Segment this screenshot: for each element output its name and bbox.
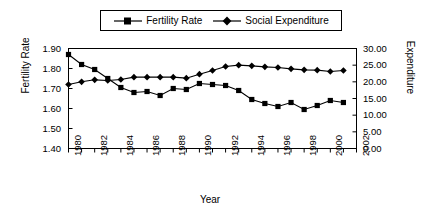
x-axis-tick-label: 1988 — [177, 126, 187, 156]
y-axis-right-tick-label: 25.00 — [363, 60, 397, 70]
x-axis-tick-label: 1992 — [230, 126, 240, 156]
x-axis-tick-label: 1990 — [203, 126, 213, 156]
y-axis-left-tick-label: 1.80 — [31, 64, 61, 74]
chart-figure: Fertility Rate Social Expenditure Fertil… — [0, 0, 438, 217]
x-axis-tick-label: 1980 — [73, 126, 83, 156]
y-axis-left-tick-label: 1.90 — [31, 44, 61, 54]
x-axis-tick-label: 1994 — [256, 126, 266, 156]
y-axis-right-tick-label: 15.00 — [363, 94, 397, 104]
x-axis-tick-label: 1986 — [151, 126, 161, 156]
x-axis-tick-label: 1982 — [99, 126, 109, 156]
y-axis-right-tick-label: 20.00 — [363, 77, 397, 87]
x-axis-tick-label: 1984 — [125, 126, 135, 156]
x-axis-tick-label: 1996 — [282, 126, 292, 156]
x-axis-tick-label: 1998 — [308, 126, 318, 156]
y-axis-left-tick-label: 1.60 — [31, 104, 61, 114]
y-axis-right-tick-label: 30.00 — [363, 44, 397, 54]
y-axis-left-tick-label: 1.50 — [31, 124, 61, 134]
x-axis-tick-label: 2002 — [361, 126, 371, 156]
y-axis-left-tick-label: 1.70 — [31, 84, 61, 94]
x-axis-tick-label: 2000 — [334, 126, 344, 156]
y-axis-left-tick-label: 1.40 — [31, 144, 61, 154]
y-axis-right-tick-label: 10.00 — [363, 110, 397, 120]
